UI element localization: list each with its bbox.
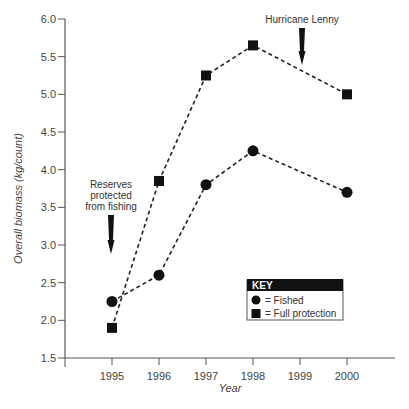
y-tick-label: 5.0 xyxy=(41,88,56,100)
legend-label-full-protection: = Full protection xyxy=(265,308,336,319)
arrow-down-icon xyxy=(299,28,306,65)
x-axis-title: Year xyxy=(219,382,243,394)
y-tick-label: 4.0 xyxy=(41,164,56,176)
arrow-down-icon xyxy=(108,215,115,254)
y-tick-label: 2.5 xyxy=(41,277,56,289)
y-tick-label: 2.0 xyxy=(41,314,56,326)
legend-title: KEY xyxy=(252,280,273,291)
series-line-fished xyxy=(112,151,347,302)
annotation-hurricane-text: Hurricane Lenny xyxy=(265,14,338,25)
x-tick-label: 1998 xyxy=(241,370,265,382)
data-point-square xyxy=(201,71,211,81)
annotation-reserves-text: from fishing xyxy=(85,201,137,212)
data-point-square xyxy=(342,89,352,99)
data-point-square xyxy=(248,40,258,50)
data-point-circle xyxy=(342,187,353,198)
y-tick-label: 4.5 xyxy=(41,126,56,138)
y-tick-label: 6.0 xyxy=(41,13,56,25)
y-tick-label: 3.0 xyxy=(41,239,56,251)
y-tick-label: 5.5 xyxy=(41,51,56,63)
data-point-circle xyxy=(248,145,259,156)
annotation-reserves-text: Reserves xyxy=(90,179,132,190)
annotation-reserves-text: protected xyxy=(90,190,132,201)
legend-square-icon xyxy=(252,309,261,318)
data-point-circle xyxy=(107,296,118,307)
data-point-circle xyxy=(201,179,212,190)
x-tick-label: 1995 xyxy=(100,370,124,382)
legend-label-fished: = Fished xyxy=(265,295,304,306)
data-point-square xyxy=(154,176,164,186)
x-tick-label: 1996 xyxy=(147,370,171,382)
x-tick-label: 2000 xyxy=(335,370,359,382)
data-point-square xyxy=(107,323,117,333)
y-tick-label: 1.5 xyxy=(41,352,56,364)
biomass-chart: 1.52.02.53.03.54.04.55.05.56.01995199619… xyxy=(0,0,409,409)
x-tick-label: 1999 xyxy=(288,370,312,382)
y-tick-label: 3.5 xyxy=(41,201,56,213)
data-point-circle xyxy=(154,270,165,281)
y-axis-title: Overall biomass (kg/count) xyxy=(12,133,24,264)
legend-circle-icon xyxy=(252,296,261,305)
legend: KEY= Fished= Full protection xyxy=(247,279,343,320)
x-tick-label: 1997 xyxy=(194,370,218,382)
